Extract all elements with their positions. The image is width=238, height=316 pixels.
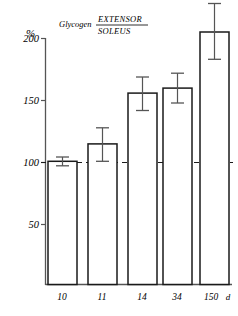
x-axis-unit-days: d — [226, 292, 231, 302]
bar-150 — [200, 32, 229, 285]
figure-container: Glycogen EXTENSOR SOLEUS % 200 150 100 5… — [0, 0, 238, 316]
bar-chart-svg: Glycogen EXTENSOR SOLEUS % 200 150 100 5… — [0, 0, 238, 316]
bar-group-34 — [163, 73, 192, 284]
bar-group-10 — [48, 157, 77, 285]
bar-14 — [128, 93, 157, 284]
x-tick-label-14: 14 — [137, 292, 147, 302]
bar-34 — [163, 88, 192, 284]
y-tick-label-100: 100 — [23, 157, 40, 168]
title-word-glycogen: Glycogen — [59, 19, 92, 29]
y-tick-label-150: 150 — [23, 95, 40, 106]
title-numerator-extensor: EXTENSOR — [97, 14, 142, 24]
x-axis-tick-labels: 10 11 14 34 150 d — [57, 292, 231, 302]
chart-title-annotation: Glycogen EXTENSOR SOLEUS — [59, 14, 148, 36]
y-axis-ticks: 200 150 100 50 — [23, 33, 45, 230]
bar-11 — [88, 144, 117, 285]
bar-group-150 — [200, 4, 229, 285]
bar-group-14 — [128, 77, 157, 285]
x-tick-label-10: 10 — [57, 292, 67, 302]
bar-group-11 — [88, 128, 117, 285]
bar-10 — [48, 161, 77, 284]
y-tick-label-50: 50 — [29, 219, 40, 230]
x-tick-label-11: 11 — [98, 292, 107, 302]
x-tick-label-150: 150 — [204, 292, 219, 302]
title-denominator-soleus: SOLEUS — [98, 26, 131, 36]
y-tick-label-200: 200 — [23, 33, 40, 44]
x-tick-label-34: 34 — [171, 292, 182, 302]
